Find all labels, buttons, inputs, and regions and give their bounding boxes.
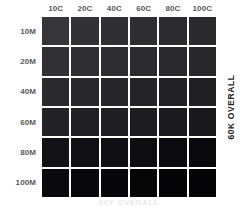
- x-axis-title: 60Y OVERALL: [42, 198, 216, 207]
- swatch-100m-80c: [159, 169, 186, 197]
- column-header-10c: 10C: [42, 2, 69, 15]
- swatch-20m-20c: [71, 47, 98, 75]
- swatch-40m-10c: [42, 78, 69, 106]
- swatch-20m-40c: [101, 47, 128, 75]
- column-header-80c: 80C: [159, 2, 186, 15]
- swatch-80m-60c: [130, 138, 157, 166]
- swatch-10m-80c: [159, 17, 186, 45]
- swatch-60m-40c: [101, 108, 128, 136]
- swatch-10m-10c: [42, 17, 69, 45]
- swatch-40m-20c: [71, 78, 98, 106]
- swatch-80m-80c: [159, 138, 186, 166]
- swatch-40m-60c: [130, 78, 157, 106]
- swatch-80m-10c: [42, 138, 69, 166]
- swatch-80m-20c: [71, 138, 98, 166]
- swatch-20m-80c: [159, 47, 186, 75]
- swatch-80m-100c: [189, 138, 216, 166]
- swatch-100m-20c: [71, 169, 98, 197]
- swatch-60m-80c: [159, 108, 186, 136]
- row-label-80m: 80M: [0, 138, 40, 166]
- y-axis-title: 60K OVERALL: [218, 17, 244, 197]
- swatch-40m-40c: [101, 78, 128, 106]
- row-label-10m: 10M: [0, 17, 40, 45]
- swatch-100m-40c: [101, 169, 128, 197]
- swatch-60m-60c: [130, 108, 157, 136]
- swatch-10m-40c: [101, 17, 128, 45]
- swatch-60m-20c: [71, 108, 98, 136]
- swatch-10m-20c: [71, 17, 98, 45]
- swatch-40m-100c: [189, 78, 216, 106]
- swatch-20m-10c: [42, 47, 69, 75]
- row-label-60m: 60M: [0, 108, 40, 136]
- row-label-column: 10M 20M 40M 60M 80M 100M: [0, 17, 40, 197]
- y-axis-title-text: 60K OVERALL: [226, 74, 236, 139]
- row-label-40m: 40M: [0, 78, 40, 106]
- swatch-60m-10c: [42, 108, 69, 136]
- swatch-20m-60c: [130, 47, 157, 75]
- swatch-10m-100c: [189, 17, 216, 45]
- swatch-100m-100c: [189, 169, 216, 197]
- swatch-80m-40c: [101, 138, 128, 166]
- swatch-60m-100c: [189, 108, 216, 136]
- column-header-row: 10C 20C 40C 60C 80C 100C: [42, 2, 216, 15]
- column-header-40c: 40C: [101, 2, 128, 15]
- swatch-grid: [42, 17, 216, 197]
- swatch-10m-60c: [130, 17, 157, 45]
- swatch-100m-10c: [42, 169, 69, 197]
- swatch-20m-100c: [189, 47, 216, 75]
- swatch-100m-60c: [130, 169, 157, 197]
- column-header-20c: 20C: [71, 2, 98, 15]
- column-header-100c: 100C: [189, 2, 216, 15]
- swatch-40m-80c: [159, 78, 186, 106]
- row-label-20m: 20M: [0, 47, 40, 75]
- swatch-grid-chart: 10C 20C 40C 60C 80C 100C 10M 20M 40M 60M…: [0, 0, 246, 213]
- column-header-60c: 60C: [130, 2, 157, 15]
- row-label-100m: 100M: [0, 169, 40, 197]
